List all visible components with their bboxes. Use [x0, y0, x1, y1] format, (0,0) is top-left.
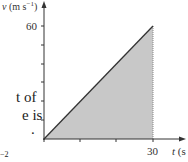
y-axis-label: v (m s−1) — [2, 0, 37, 13]
velocity-time-chart: 60 30 v (m s−1) t (s — [0, 0, 188, 162]
x-axis-label: t (s — [172, 145, 186, 158]
y-axis-arrow-icon — [42, 1, 47, 8]
x-tick-label-30: 30 — [147, 145, 159, 157]
y-tick-label-60: 60 — [26, 20, 38, 32]
x-axis-arrow-icon — [179, 137, 186, 142]
